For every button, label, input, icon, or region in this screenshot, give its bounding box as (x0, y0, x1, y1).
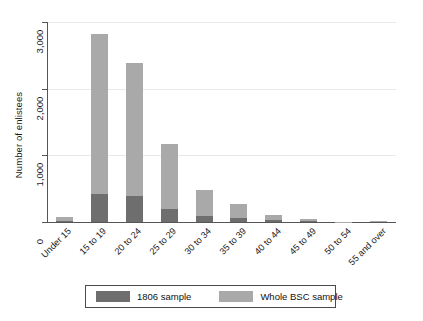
bar-segment-whole-bsc-sample (370, 221, 387, 222)
bar-segment-1806-sample (91, 194, 108, 222)
bar-40-to-44 (265, 215, 282, 222)
bar-segment-1806-sample (126, 196, 143, 222)
bar-chart: Number of enlistees 01,0002,0003,000 Und… (0, 0, 423, 321)
plot-area (47, 22, 396, 222)
y-axis-title: Number of enlistees (13, 0, 27, 60)
bar-segment-1806-sample (56, 221, 73, 222)
bar-30-to-34 (196, 190, 213, 222)
legend-entry: 1806 sample (86, 286, 191, 307)
y-axis-title-label: Number of enlistees (13, 60, 24, 210)
y-tick-label: 3,000 (34, 22, 45, 62)
y-tick-label: 2,000 (34, 88, 45, 128)
bar-segment-1806-sample (196, 216, 213, 222)
bar-segment-1806-sample (161, 209, 178, 222)
x-axis-line (47, 222, 396, 223)
legend-entry: Whole BSC sample (209, 286, 342, 307)
legend-swatch (96, 291, 130, 302)
bar-segment-1806-sample (265, 220, 282, 222)
legend-label: Whole BSC sample (260, 291, 342, 302)
legend-swatch (219, 291, 253, 302)
bar-20-to-24 (126, 63, 143, 222)
bar-under-15 (56, 217, 73, 222)
bar-25-to-29 (161, 144, 178, 222)
chart-legend: 1806 sampleWhole BSC sample (85, 285, 336, 308)
bar-segment-1806-sample (300, 221, 317, 222)
legend-label: 1806 sample (137, 291, 191, 302)
y-tick-label: 1,000 (34, 155, 45, 195)
bar-35-to-39 (230, 204, 247, 222)
bar-45-to-49 (300, 219, 317, 222)
bar-segment-1806-sample (230, 218, 247, 222)
bar-15-to-19 (91, 34, 108, 222)
bar-55-and-over (370, 221, 387, 222)
